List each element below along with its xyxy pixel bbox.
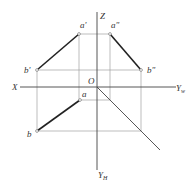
point-b-top (36, 130, 39, 133)
point-b-side (140, 69, 143, 72)
label-x: X (11, 82, 18, 92)
point-b-front (36, 69, 39, 72)
point-a-top (79, 99, 82, 102)
point-a-front (78, 33, 81, 36)
axes (20, 12, 176, 170)
label-yw: Yw (176, 83, 185, 94)
label-b-side: b" (147, 65, 156, 75)
label-a-side: a" (111, 20, 120, 30)
label-origin: O (88, 76, 95, 86)
label-z: Z (100, 11, 106, 21)
point-a-side (109, 33, 112, 36)
top-view-ab (37, 100, 80, 131)
label-b-top: b (27, 129, 32, 139)
label-a-front: a' (80, 20, 88, 30)
label-b-front: b' (24, 65, 32, 75)
projection-diagram: Z X O Yw YH a' a" b' b" a b (0, 0, 193, 181)
front-view-ab (37, 34, 79, 70)
label-yh: YH (98, 170, 108, 181)
45-degree-line (97, 87, 160, 150)
side-view-ab (110, 34, 141, 70)
label-a-top: a (82, 89, 87, 99)
